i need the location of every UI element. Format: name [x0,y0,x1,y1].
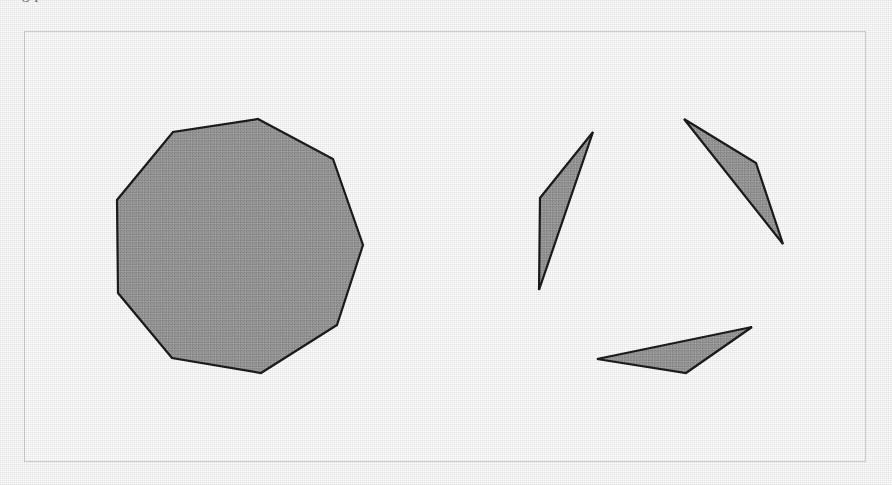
sliver-triangle-bottom-shape [597,327,752,373]
figure-canvas [0,0,892,485]
decagon-shape [117,119,363,373]
sliver-triangle-right-shape [684,119,783,244]
sliver-triangle-left-shape [539,132,593,290]
scanned-page: g p [0,0,892,485]
